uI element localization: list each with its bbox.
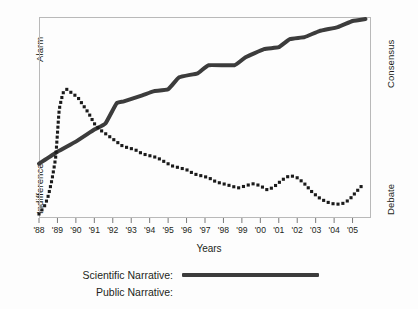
dotted-line-swatch	[182, 290, 319, 294]
x-axis-tick-label: '97	[199, 225, 210, 235]
legend-row-public: Public Narrative:	[0, 283, 418, 300]
x-axis-tick-label: '01	[273, 225, 284, 235]
x-axis-tick-label: '95	[163, 225, 174, 235]
solid-line-swatch	[182, 273, 319, 277]
x-axis-tick-labels: '88'89'90'91'92'93'94'95'96'97'98'99'00'…	[39, 225, 371, 239]
x-axis-tick-label: '92	[107, 225, 118, 235]
x-axis-tick-label: '90	[70, 225, 81, 235]
legend-label-scientific: Scientific Narrative:	[0, 269, 182, 281]
x-axis-tick-label: '98	[218, 225, 229, 235]
legend-swatch-scientific	[182, 269, 322, 281]
y-axis-right-bottom-label: Debate	[385, 184, 396, 215]
chart-figure: Alarm Indifference Consensus Debate '88'…	[0, 0, 418, 309]
x-axis-tick-label: '88	[33, 225, 44, 235]
chart-legend: Scientific Narrative: Public Narrative:	[0, 266, 418, 300]
x-axis-tick-label: '00	[255, 225, 266, 235]
x-axis-tick-label: '99	[236, 225, 247, 235]
x-axis-tick-label: '91	[89, 225, 100, 235]
x-axis-tick-label: '02	[292, 225, 303, 235]
x-axis-tick-label: '93	[126, 225, 137, 235]
x-axis-tick-label: '89	[52, 225, 63, 235]
x-axis-tick-label: '96	[181, 225, 192, 235]
plot-area	[39, 17, 371, 218]
legend-row-scientific: Scientific Narrative:	[0, 266, 418, 283]
x-axis-tick-label: '03	[310, 225, 321, 235]
y-axis-right-top-label: Consensus	[385, 40, 396, 88]
x-axis-title: Years	[0, 243, 418, 254]
x-axis-tick-label: '05	[347, 225, 358, 235]
x-axis-ticks	[39, 218, 353, 223]
legend-label-public: Public Narrative:	[0, 286, 182, 298]
legend-swatch-public	[182, 286, 322, 298]
x-axis-tick-label: '04	[329, 225, 340, 235]
x-axis-tick-label: '94	[144, 225, 155, 235]
